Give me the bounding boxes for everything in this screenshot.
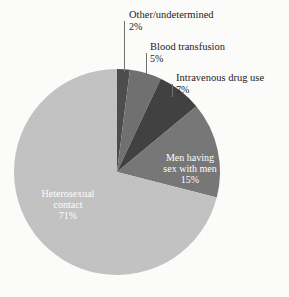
slice-label-het-line1: Heterosexual bbox=[42, 188, 95, 199]
callout-value-intravenous-drug-use: 7% bbox=[176, 84, 264, 96]
slice-label-men-having-sex-with-men: Men having sex with men 15% bbox=[152, 152, 228, 185]
callout-label-blood-transfusion: Blood transfusion bbox=[150, 41, 225, 52]
pie-chart-figure: Other/undetermined 2% Blood transfusion … bbox=[0, 0, 289, 297]
slice-label-msm-line2: sex with men bbox=[163, 163, 216, 174]
callout-value-blood-transfusion: 5% bbox=[150, 53, 225, 65]
pie-chart-canvas bbox=[0, 0, 289, 297]
callout-label-other-undetermined: Other/undetermined bbox=[129, 9, 214, 20]
slice-value-men-having-sex-with-men: 15% bbox=[152, 174, 228, 185]
callout-label-intravenous-drug-use: Intravenous drug use bbox=[176, 72, 264, 83]
callout-other-undetermined: Other/undetermined 2% bbox=[129, 9, 214, 32]
slice-label-heterosexual-contact: Heterosexual contact 71% bbox=[26, 188, 110, 221]
callout-blood-transfusion: Blood transfusion 5% bbox=[150, 41, 225, 64]
slice-value-heterosexual-contact: 71% bbox=[26, 210, 110, 221]
callout-intravenous-drug-use: Intravenous drug use 7% bbox=[176, 72, 264, 95]
slice-label-msm-line1: Men having bbox=[166, 152, 214, 163]
callout-value-other-undetermined: 2% bbox=[129, 21, 214, 33]
slice-label-het-line2: contact bbox=[54, 199, 83, 210]
